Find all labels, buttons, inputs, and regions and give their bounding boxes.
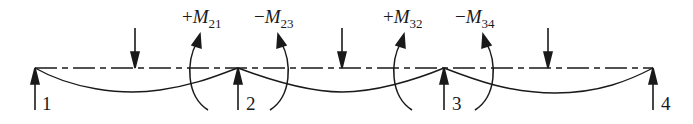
arrow-up-icon bbox=[649, 68, 657, 84]
arrow-down-icon bbox=[338, 52, 346, 68]
support-1 bbox=[31, 68, 39, 110]
moment-label-M23: −M23 bbox=[254, 6, 294, 31]
curved-arrow-icon bbox=[396, 34, 405, 48]
load-span-2-3 bbox=[338, 28, 346, 68]
arrow-up-icon bbox=[234, 68, 242, 84]
support-label-4: 4 bbox=[661, 93, 671, 114]
moment-label-M34: −M34 bbox=[455, 6, 495, 31]
deflection-span-1-2 bbox=[35, 68, 238, 92]
support-3 bbox=[440, 68, 448, 110]
load-span-1-2 bbox=[131, 28, 139, 68]
load-span-3-4 bbox=[544, 28, 552, 68]
deflection-span-2-3 bbox=[238, 68, 444, 92]
moment-M23 bbox=[270, 34, 288, 110]
curved-arrow-icon bbox=[482, 34, 491, 48]
support-label-2: 2 bbox=[246, 93, 256, 114]
curved-arrow-icon bbox=[277, 34, 286, 48]
support-4 bbox=[649, 68, 657, 110]
arrow-down-icon bbox=[544, 52, 552, 68]
deflection-span-3-4 bbox=[444, 68, 653, 93]
support-label-1: 1 bbox=[42, 93, 52, 114]
support-2 bbox=[234, 68, 242, 110]
moment-M32 bbox=[394, 34, 412, 110]
moment-M21 bbox=[190, 34, 208, 110]
supports bbox=[31, 68, 657, 110]
arrow-down-icon bbox=[131, 52, 139, 68]
arrow-up-icon bbox=[440, 68, 448, 84]
moment-label-M21: +M21 bbox=[182, 6, 222, 31]
support-label-3: 3 bbox=[452, 93, 462, 114]
moment-M34 bbox=[475, 34, 493, 110]
arrow-up-icon bbox=[31, 68, 39, 84]
continuous-beam-diagram: 1 2 3 4 bbox=[0, 0, 693, 124]
moment-label-M32: +M32 bbox=[383, 6, 423, 31]
deflection-curve bbox=[35, 68, 653, 93]
curved-arrow-icon bbox=[192, 34, 201, 48]
